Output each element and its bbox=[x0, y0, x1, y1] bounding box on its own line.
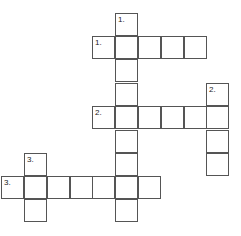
crossword-cell[interactable] bbox=[138, 36, 161, 59]
crossword-cell[interactable] bbox=[115, 199, 138, 222]
crossword-cell[interactable] bbox=[161, 106, 184, 129]
crossword-cell[interactable] bbox=[161, 36, 184, 59]
crossword-cell[interactable] bbox=[206, 106, 229, 129]
crossword-cell[interactable]: 1. bbox=[115, 13, 138, 36]
crossword-cell[interactable] bbox=[184, 36, 207, 59]
clue-number: 3. bbox=[27, 155, 34, 164]
crossword-cell[interactable] bbox=[115, 130, 138, 153]
crossword-cell[interactable]: 2. bbox=[206, 83, 229, 106]
crossword-cell[interactable] bbox=[115, 176, 138, 199]
crossword-cell[interactable] bbox=[92, 176, 115, 199]
crossword-cell[interactable]: 1. bbox=[92, 36, 115, 59]
crossword-cell[interactable] bbox=[24, 199, 47, 222]
crossword-cell[interactable] bbox=[47, 176, 70, 199]
crossword-cell[interactable] bbox=[115, 36, 138, 59]
crossword-cell[interactable] bbox=[24, 176, 47, 199]
clue-number: 1. bbox=[95, 38, 102, 47]
crossword-cell[interactable] bbox=[115, 83, 138, 106]
crossword-cell[interactable] bbox=[138, 176, 161, 199]
crossword-cell[interactable]: 3. bbox=[24, 153, 47, 176]
crossword-cell[interactable]: 3. bbox=[1, 176, 24, 199]
crossword-cell[interactable]: 2. bbox=[92, 106, 115, 129]
crossword-cell[interactable] bbox=[206, 153, 229, 176]
clue-number: 2. bbox=[209, 85, 216, 94]
crossword-cell[interactable] bbox=[70, 176, 93, 199]
crossword-cell[interactable] bbox=[115, 59, 138, 82]
clue-number: 2. bbox=[95, 108, 102, 117]
crossword-cell[interactable] bbox=[138, 106, 161, 129]
crossword-cell[interactable] bbox=[184, 106, 207, 129]
clue-number: 1. bbox=[118, 15, 125, 24]
crossword-cell[interactable] bbox=[115, 153, 138, 176]
crossword-cell[interactable] bbox=[206, 130, 229, 153]
crossword-cell[interactable] bbox=[115, 106, 138, 129]
clue-number: 3. bbox=[4, 178, 11, 187]
